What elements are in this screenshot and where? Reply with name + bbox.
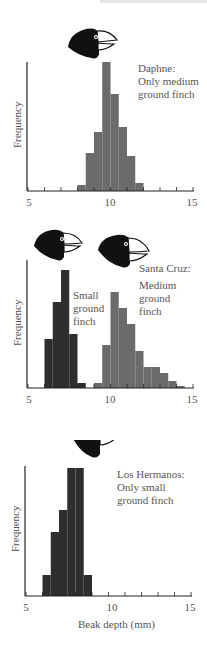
histogram-bar bbox=[51, 532, 59, 596]
histogram-bar bbox=[69, 334, 77, 388]
histogram-bar bbox=[61, 270, 69, 388]
finch-head-icon bbox=[68, 29, 117, 59]
y-axis-label: Frequency bbox=[11, 102, 23, 148]
histogram-bar bbox=[102, 62, 110, 191]
histogram-bar bbox=[94, 383, 102, 388]
histogram-bar bbox=[111, 94, 119, 191]
x-tick-label: 15 bbox=[187, 196, 198, 208]
histogram-bar bbox=[94, 132, 102, 191]
histogram-bar bbox=[78, 185, 86, 191]
island-label: Daphne: Only medium ground finch bbox=[138, 62, 199, 101]
x-tick-label: 5 bbox=[23, 601, 29, 613]
histogram-bar bbox=[45, 339, 53, 388]
histogram-bar bbox=[78, 383, 86, 388]
histogram-bar bbox=[135, 351, 143, 388]
x-tick-label: 5 bbox=[26, 196, 32, 208]
histogram-bar bbox=[67, 468, 75, 596]
x-axis-title: Beak depth (mm) bbox=[78, 618, 155, 630]
histogram-bar bbox=[160, 373, 168, 388]
histogram-bar bbox=[119, 308, 127, 388]
histogram-bar bbox=[43, 575, 51, 596]
histogram-bar bbox=[144, 367, 152, 388]
x-tick-label: 10 bbox=[107, 601, 118, 613]
island-label: Santa Cruz: bbox=[139, 262, 191, 275]
histogram-bar bbox=[53, 302, 61, 388]
histogram-bar bbox=[102, 345, 110, 388]
histogram-bar bbox=[127, 156, 135, 191]
histogram-daphne bbox=[0, 0, 207, 220]
finch-head-icon bbox=[70, 440, 117, 458]
bars bbox=[78, 62, 144, 191]
histogram-bar bbox=[59, 510, 67, 596]
histogram-santa-cruz bbox=[0, 220, 207, 440]
panel-santa-cruz: Santa Cruz: Small ground finch Medium gr… bbox=[0, 220, 207, 440]
y-axis-label: Frequency bbox=[11, 300, 23, 346]
medium-finch-label: Medium ground finch bbox=[139, 279, 176, 318]
small-finch-label: Small ground finch bbox=[73, 289, 104, 328]
x-tick-label: 10 bbox=[105, 196, 116, 208]
x-tick-label: 5 bbox=[26, 393, 32, 405]
histogram-bar bbox=[135, 183, 143, 191]
bars bbox=[43, 468, 93, 596]
histogram-bar bbox=[111, 292, 119, 388]
histogram-bar bbox=[76, 468, 84, 596]
x-tick-label: 15 bbox=[185, 601, 196, 613]
panel-daphne: Daphne: Only medium ground finch Frequen… bbox=[0, 0, 207, 220]
x-tick-label: 15 bbox=[187, 393, 198, 405]
histogram-bar bbox=[152, 367, 160, 388]
histogram-bar bbox=[127, 324, 135, 388]
panel-los-hermanos: Los Hermanos: Only small ground finch Fr… bbox=[0, 440, 207, 666]
x-tick-label: 10 bbox=[105, 393, 116, 405]
y-axis-label: Frequency bbox=[9, 506, 21, 552]
island-label: Los Hermanos: Only small ground finch bbox=[117, 468, 185, 507]
histogram-bar bbox=[84, 575, 92, 596]
histogram-bar bbox=[168, 381, 176, 388]
histogram-bar bbox=[86, 153, 94, 191]
histogram-bar bbox=[119, 127, 127, 191]
finch-head-icon-small bbox=[34, 230, 82, 261]
